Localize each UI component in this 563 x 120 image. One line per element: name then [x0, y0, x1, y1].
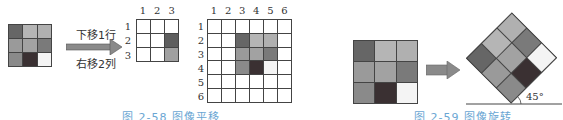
column-label: 2	[221, 6, 235, 16]
grid-cell	[151, 34, 164, 47]
column-label: 1	[207, 6, 221, 16]
grid-cell	[151, 48, 164, 61]
column-label: 1	[136, 6, 150, 16]
rotation-source-grid	[353, 40, 418, 104]
grid-cell	[250, 48, 263, 61]
source-image-grid	[8, 24, 52, 67]
row-label: 2	[121, 36, 135, 46]
grid-cell	[278, 20, 291, 33]
column-label: 4	[249, 6, 263, 16]
grid-cell	[236, 75, 249, 88]
grid-cell	[208, 89, 221, 102]
grid-cell	[137, 20, 150, 33]
grid-cell	[165, 48, 178, 61]
grid-cell	[278, 48, 291, 61]
grid-cell	[222, 75, 235, 88]
grid-cell	[9, 53, 22, 66]
column-label: 3	[165, 6, 179, 16]
grid-cell	[250, 61, 263, 74]
grid-cell	[236, 48, 249, 61]
grid-cell	[137, 48, 150, 61]
angle-label: 45°	[526, 91, 544, 102]
row-label: 6	[194, 92, 208, 102]
grid-cell	[222, 48, 235, 61]
grid-cell	[354, 83, 374, 103]
grid-cell	[397, 83, 417, 103]
grid-cell	[278, 61, 291, 74]
grid-cell	[354, 41, 374, 61]
column-label: 3	[235, 6, 249, 16]
grid-cell	[38, 39, 51, 52]
grid-cell	[264, 48, 277, 61]
grid-cell	[264, 89, 277, 102]
arrow-label-down: 下移1行	[76, 26, 116, 42]
row-label: 3	[194, 50, 208, 60]
grid-cell	[278, 34, 291, 47]
row-label: 4	[194, 64, 208, 74]
grid-cell	[23, 25, 36, 38]
grid-cell	[250, 34, 263, 47]
grid-cell	[23, 39, 36, 52]
grid-cell	[208, 34, 221, 47]
grid-cell	[165, 34, 178, 47]
grid-cell	[165, 20, 178, 33]
grid-cell	[236, 61, 249, 74]
grid-cell	[151, 20, 164, 33]
grid-cell	[397, 41, 417, 61]
grid-cell	[222, 89, 235, 102]
grid-cell	[23, 53, 36, 66]
grid-cell	[222, 20, 235, 33]
grid-cell	[208, 20, 221, 33]
grid-cell	[9, 39, 22, 52]
grid-cell	[222, 61, 235, 74]
grid-cell	[236, 20, 249, 33]
grid-cell	[208, 61, 221, 74]
grid-cell	[38, 53, 51, 66]
figure-2-59-caption: 图 2-59 图像旋转	[414, 108, 512, 120]
grid-cell	[137, 34, 150, 47]
grid-cell	[397, 62, 417, 82]
column-label: 2	[150, 6, 164, 16]
row-label: 2	[194, 36, 208, 46]
grid-cell	[264, 61, 277, 74]
grid-cell	[264, 75, 277, 88]
row-label: 3	[121, 51, 135, 61]
grid-cell	[222, 34, 235, 47]
grid-cell	[264, 20, 277, 33]
figure-2-58-caption: 图 2-58 图像平移	[122, 108, 220, 120]
row-label: 1	[194, 22, 208, 32]
row-label: 5	[194, 78, 208, 88]
translated-image-grid	[207, 19, 292, 103]
grid-cell	[354, 62, 374, 82]
row-label: 1	[121, 22, 135, 32]
grid-cell	[278, 89, 291, 102]
grid-cell	[250, 20, 263, 33]
grid-cell	[375, 62, 395, 82]
grid-cell	[236, 89, 249, 102]
grid-cell	[278, 75, 291, 88]
grid-cell	[236, 34, 249, 47]
grid-cell	[264, 34, 277, 47]
grid-cell	[9, 25, 22, 38]
grid-cell	[375, 83, 395, 103]
partial-result-grid	[136, 19, 179, 62]
grid-cell	[250, 75, 263, 88]
grid-cell	[208, 48, 221, 61]
rotation-arrow-icon	[426, 61, 460, 79]
arrow-label-right: 右移2列	[76, 55, 116, 71]
angle-baseline	[466, 80, 563, 110]
column-label: 6	[278, 6, 292, 16]
grid-cell	[38, 25, 51, 38]
column-label: 5	[263, 6, 277, 16]
grid-cell	[208, 75, 221, 88]
grid-cell	[250, 89, 263, 102]
grid-cell	[375, 41, 395, 61]
